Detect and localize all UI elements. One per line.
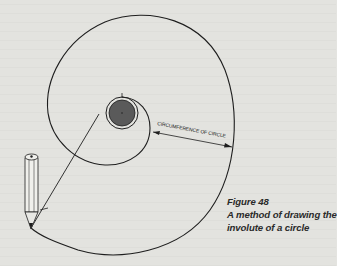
figure-number: Figure 48 bbox=[227, 195, 337, 208]
pencil-icon bbox=[25, 154, 38, 229]
string-tick bbox=[40, 208, 48, 210]
string-line bbox=[31, 114, 99, 228]
circumference-label: CIRCUMFERENCE OF CIRCLE bbox=[157, 120, 227, 139]
figure-caption: Figure 48 A method of drawing the involu… bbox=[227, 195, 337, 234]
center-point bbox=[121, 112, 123, 114]
caption-line-1: A method of drawing the bbox=[227, 208, 337, 221]
involute-spiral bbox=[31, 15, 234, 254]
caption-line-2: involute of a circle bbox=[227, 221, 337, 234]
